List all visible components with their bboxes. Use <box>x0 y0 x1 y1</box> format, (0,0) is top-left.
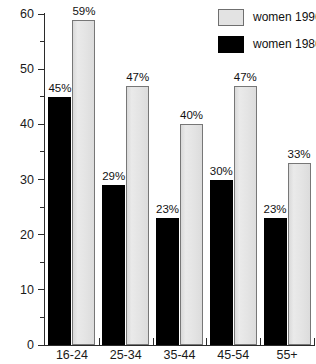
bar-value-label: 59% <box>66 6 101 18</box>
y-axis-tick <box>38 14 45 15</box>
bar-women-1996 <box>126 86 149 345</box>
y-axis-tick <box>38 124 45 125</box>
legend-item-women-1996: women 1996 <box>218 8 316 26</box>
bar-women-1986 <box>264 218 287 345</box>
x-axis-label-16-24: 16-24 <box>45 349 99 362</box>
legend-label: women 1996 <box>253 11 316 23</box>
bar-women-1996 <box>234 86 257 345</box>
bar-value-label: 33% <box>282 149 316 161</box>
plot-area: 45%59%29%47%23%40%30%47%23%33% <box>45 14 314 345</box>
x-axis-tick <box>153 338 154 346</box>
x-axis-label-45-54: 45-54 <box>206 349 260 362</box>
bar-chart: 0102030405060 45%59%29%47%23%40%30%47%23… <box>0 0 316 364</box>
bar-value-label: 47% <box>120 72 155 84</box>
legend-label: women 1986 <box>253 38 316 50</box>
y-axis-tick <box>38 179 45 180</box>
bar-women-1996 <box>180 124 203 345</box>
x-axis-label-25-34: 25-34 <box>99 349 153 362</box>
y-axis-tick <box>38 69 45 70</box>
bar-women-1996 <box>288 163 311 345</box>
x-axis-tick <box>260 338 261 346</box>
bar-women-1986 <box>48 97 71 345</box>
legend: women 1996women 1986 <box>218 8 316 62</box>
bar-women-1986 <box>210 180 233 346</box>
x-axis-tick <box>314 338 315 346</box>
x-axis-label-35-44: 35-44 <box>153 349 207 362</box>
y-axis-tick <box>38 234 45 235</box>
y-axis-tick-label: 20 <box>0 229 34 242</box>
bar-women-1986 <box>102 185 125 345</box>
y-axis-tick-label: 60 <box>0 8 34 21</box>
y-axis-tick-label: 50 <box>0 63 34 76</box>
x-axis-label-55+: 55+ <box>260 349 314 362</box>
bar-value-label: 40% <box>174 110 209 122</box>
x-axis-line <box>44 345 315 346</box>
legend-swatch <box>218 36 244 53</box>
x-axis-tick <box>206 338 207 346</box>
y-axis-tick-label: 30 <box>0 174 34 187</box>
bar-women-1996 <box>72 20 95 345</box>
bar-women-1986 <box>156 218 179 345</box>
bar-value-label: 47% <box>228 72 263 84</box>
y-axis-tick-label: 0 <box>0 339 34 352</box>
y-axis-tick-label: 10 <box>0 284 34 297</box>
x-axis-tick <box>99 338 100 346</box>
legend-swatch <box>218 9 244 26</box>
y-axis-tick <box>38 289 45 290</box>
legend-item-women-1986: women 1986 <box>218 35 316 53</box>
y-axis-tick-label: 40 <box>0 118 34 131</box>
